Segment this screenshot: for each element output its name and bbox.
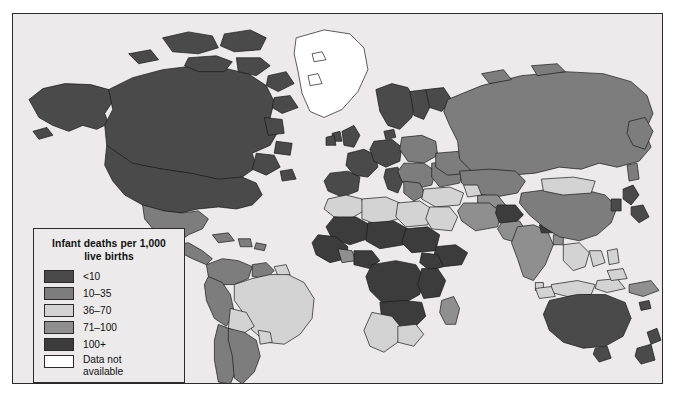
legend-item-under-10: <10: [44, 269, 176, 284]
legend-item-71-100: 71–100: [44, 320, 176, 335]
legend-item-36-70: 36–70: [44, 303, 176, 318]
legend-swatch-100-plus: [44, 338, 74, 351]
legend-swatch-36-70: [44, 304, 74, 317]
legend-label-100-plus: 100+: [83, 339, 106, 351]
legend-title-line2: live births: [84, 251, 134, 262]
legend-swatch-71-100: [44, 321, 74, 334]
legend-label-71-100: 71–100: [83, 322, 117, 334]
legend-label-36-70: 36–70: [83, 305, 111, 317]
legend-item-100-plus: 100+: [44, 337, 176, 352]
legend-title: Infant deaths per 1,000 live births: [42, 238, 176, 263]
legend-label-10-35: 10–35: [83, 288, 111, 300]
map-frame: .c{stroke:#1a1a1a;stroke-width:.7;stroke…: [12, 13, 663, 384]
world-map-figure: .c{stroke:#1a1a1a;stroke-width:.7;stroke…: [0, 0, 677, 397]
legend-item-no-data: Data not available: [44, 354, 176, 377]
legend-swatch-under-10: [44, 270, 74, 283]
legend-item-10-35: 10–35: [44, 286, 176, 301]
legend-label-under-10: <10: [83, 271, 100, 283]
legend-label-no-data: Data not available: [83, 354, 123, 377]
legend-swatch-no-data: [44, 355, 74, 368]
legend-swatch-10-35: [44, 287, 74, 300]
legend-title-line1: Infant deaths per 1,000: [52, 238, 166, 249]
map-legend: Infant deaths per 1,000 live births <10 …: [33, 228, 185, 383]
